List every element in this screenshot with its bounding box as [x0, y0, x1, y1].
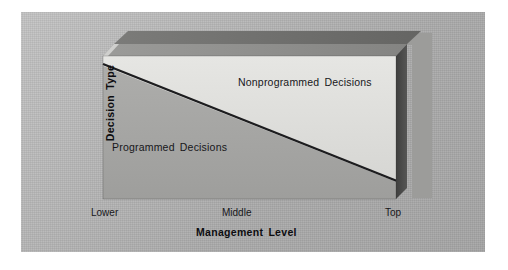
figure-root: Nonprogrammed Decisions Programmed Decis… [0, 0, 508, 270]
block-rear-top-band [114, 31, 421, 44]
block-top-face [103, 44, 407, 56]
x-axis-tick-top: Top [385, 207, 401, 218]
x-axis-tick-middle: Middle [222, 207, 251, 218]
x-axis-title: Management Level [196, 226, 297, 238]
y-axis-title: Decision Type [104, 55, 116, 151]
label-nonprogrammed-decisions: Nonprogrammed Decisions [238, 76, 372, 88]
label-programmed-decisions: Programmed Decisions [112, 141, 227, 153]
x-axis-tick-lower: Lower [91, 207, 118, 218]
block-right-side-face [396, 44, 407, 199]
